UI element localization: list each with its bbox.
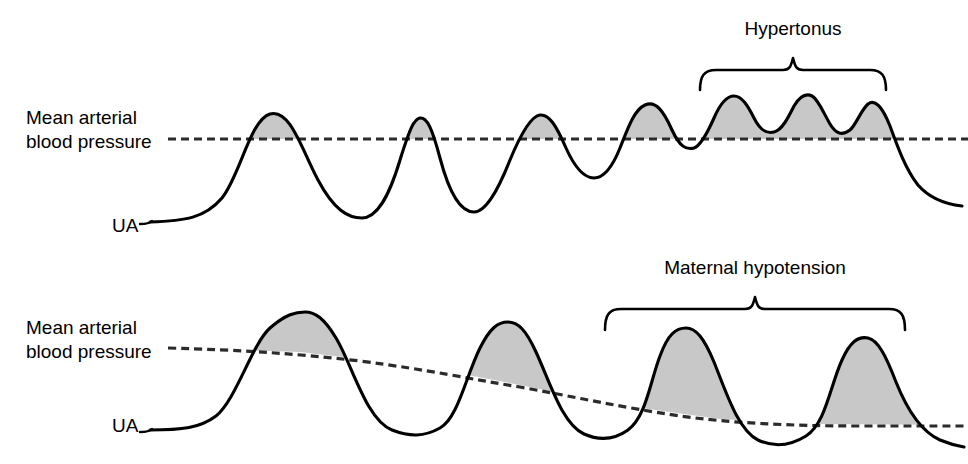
top-map-label-line1: Mean arterial <box>26 107 137 128</box>
top-ua-leader-line <box>140 221 152 224</box>
maternal-hypotension-panel: Mean arterial blood pressure UA Maternal… <box>26 257 968 464</box>
top-ua-trace <box>150 95 962 222</box>
hypertonus-brace <box>700 58 886 90</box>
top-map-label-line2: blood pressure <box>26 131 152 152</box>
hypertonus-panel: Mean arterial blood pressure UA Hyperton… <box>26 18 968 250</box>
top-ua-label: UA <box>112 215 139 236</box>
hypertonus-annotation-label: Hypertonus <box>744 18 841 39</box>
uterine-activity-figure: Mean arterial blood pressure UA Hyperton… <box>0 0 968 464</box>
bottom-ua-leader-line <box>140 429 152 432</box>
bottom-map-label-line1: Mean arterial <box>26 317 137 338</box>
maternal-hypotension-brace <box>605 297 905 330</box>
bottom-shaded-contraction-area <box>150 312 964 464</box>
bottom-ua-label: UA <box>112 415 139 436</box>
top-shaded-contraction-area <box>150 95 962 250</box>
maternal-hypotension-annotation-label: Maternal hypotension <box>664 257 846 278</box>
bottom-map-label-line2: blood pressure <box>26 341 152 362</box>
